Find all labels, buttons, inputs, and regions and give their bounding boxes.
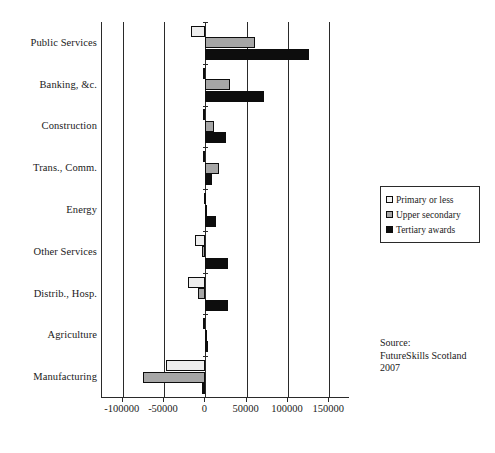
legend-swatch-upper-secondary — [386, 211, 393, 218]
gridline — [123, 22, 124, 397]
category-label-banking-c: Banking, &c. — [1, 79, 97, 90]
chart-container: Public ServicesBanking, &c.ConstructionT… — [0, 0, 495, 453]
bar-distrib-hosp-tertiary-awards — [205, 300, 228, 311]
legend-item-tertiary-awards: Tertiary awards — [386, 222, 475, 237]
bar-agriculture-upper-secondary — [205, 330, 207, 341]
category-tick — [203, 189, 208, 190]
bar-banking-c-primary-or-less — [203, 68, 205, 79]
category-axis-labels: Public ServicesBanking, &c.ConstructionT… — [0, 22, 97, 398]
x-tick-label: -50000 — [148, 402, 178, 415]
source-note: Source: FutureSkills Scotland 2007 — [380, 337, 490, 375]
category-tick — [203, 147, 208, 148]
bar-public-services-primary-or-less — [191, 26, 205, 37]
bar-public-services-upper-secondary — [205, 37, 255, 48]
bar-manufacturing-upper-secondary — [143, 372, 205, 383]
bar-distrib-hosp-upper-secondary — [198, 288, 205, 299]
category-tick — [203, 231, 208, 232]
x-tick-mark — [122, 398, 123, 402]
bar-other-services-tertiary-awards — [205, 258, 227, 269]
x-tick-label: 150000 — [313, 402, 345, 415]
category-label-trans-comm: Trans., Comm. — [1, 162, 97, 173]
bar-manufacturing-tertiary-awards — [202, 383, 205, 394]
x-tick-mark — [204, 398, 205, 402]
x-tick-label: -100000 — [104, 402, 139, 415]
bar-manufacturing-primary-or-less — [166, 360, 206, 371]
gridline — [164, 22, 165, 397]
category-tick — [203, 64, 208, 65]
x-tick-label: 0 — [202, 402, 207, 415]
bar-distrib-hosp-primary-or-less — [188, 277, 205, 288]
bar-agriculture-primary-or-less — [203, 318, 205, 329]
legend-item-upper-secondary: Upper secondary — [386, 207, 475, 222]
x-tick-mark — [328, 398, 329, 402]
source-line-1: Source: — [380, 337, 490, 350]
legend-label: Primary or less — [396, 194, 454, 206]
bar-other-services-upper-secondary — [202, 246, 205, 257]
category-label-other-services: Other Services — [1, 246, 97, 257]
category-label-distrib-hosp: Distrib., Hosp. — [1, 288, 97, 299]
source-line-2: FutureSkills Scotland — [380, 350, 490, 363]
category-tick — [203, 22, 208, 23]
bar-agriculture-tertiary-awards — [205, 341, 207, 352]
category-label-agriculture: Agriculture — [1, 329, 97, 340]
source-line-3: 2007 — [380, 362, 490, 375]
category-label-manufacturing: Manufacturing — [1, 371, 97, 382]
bar-energy-tertiary-awards — [205, 216, 216, 227]
x-tick-label: 100000 — [271, 402, 303, 415]
category-tick — [203, 314, 208, 315]
legend-swatch-primary — [386, 196, 393, 203]
bar-construction-primary-or-less — [203, 109, 205, 120]
x-tick-mark — [246, 398, 247, 402]
gridline — [247, 22, 248, 397]
x-tick-mark — [163, 398, 164, 402]
bar-banking-c-upper-secondary — [205, 79, 230, 90]
category-tick — [203, 106, 208, 107]
legend-item-primary-or-less: Primary or less — [386, 192, 475, 207]
bar-construction-upper-secondary — [205, 121, 214, 132]
x-axis-tick-labels: -100000-50000050000100000150000 — [0, 402, 495, 422]
bar-trans-comm-primary-or-less — [203, 151, 205, 162]
legend-swatch-tertiary — [386, 226, 393, 233]
legend-label: Tertiary awards — [396, 224, 455, 236]
plot-area — [101, 22, 349, 398]
bar-other-services-primary-or-less — [195, 235, 206, 246]
bar-construction-tertiary-awards — [205, 132, 226, 143]
category-tick — [203, 356, 208, 357]
bar-energy-primary-or-less — [204, 193, 206, 204]
bar-trans-comm-tertiary-awards — [205, 174, 212, 185]
x-tick-label: 50000 — [233, 402, 259, 415]
legend: Primary or lessUpper secondaryTertiary a… — [380, 186, 480, 243]
category-tick — [203, 273, 208, 274]
bar-energy-upper-secondary — [205, 205, 207, 216]
legend-label: Upper secondary — [396, 209, 461, 221]
x-tick-mark — [287, 398, 288, 402]
category-label-construction: Construction — [1, 120, 97, 131]
bar-trans-comm-upper-secondary — [205, 163, 218, 174]
category-label-energy: Energy — [1, 204, 97, 215]
gridline — [329, 22, 330, 397]
gridline — [288, 22, 289, 397]
bar-banking-c-tertiary-awards — [205, 91, 264, 102]
bar-public-services-tertiary-awards — [205, 49, 309, 60]
category-label-public-services: Public Services — [1, 37, 97, 48]
